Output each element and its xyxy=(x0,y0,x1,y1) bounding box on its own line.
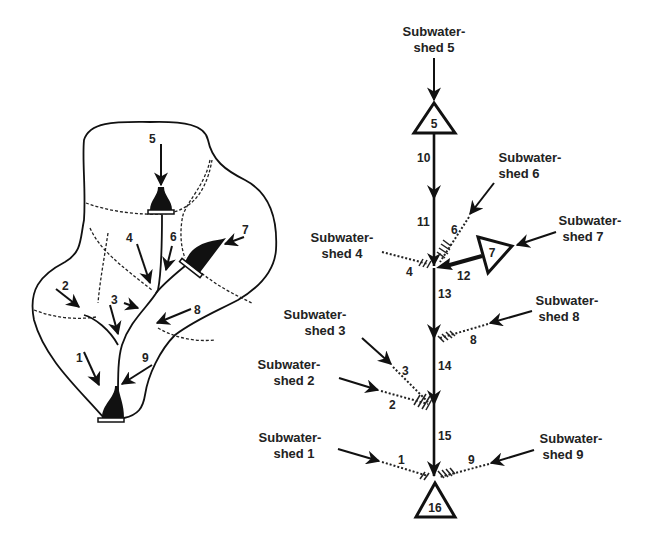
map-label-3: 3 xyxy=(111,293,118,307)
runoff-3-label: 3 xyxy=(402,364,409,378)
inflow-arrow-7 xyxy=(517,232,556,245)
reservoir-5-icon xyxy=(150,187,172,210)
map-label-8: 8 xyxy=(194,303,201,317)
inflow-arrow-6 xyxy=(470,183,494,214)
subwatershed-3-label-line2: shed 3 xyxy=(304,323,345,338)
runoff-3-line xyxy=(393,367,428,402)
map-arrow-4 xyxy=(137,244,150,283)
outlet-dam-icon xyxy=(98,418,124,422)
map-label-4: 4 xyxy=(126,231,133,245)
map-label-6: 6 xyxy=(170,230,177,244)
subwatershed-8-label-line1: Subwater- xyxy=(536,293,599,308)
inflow-arrow-2 xyxy=(339,378,378,390)
subwatershed-5-label-line2: shed 5 xyxy=(413,40,454,55)
inflow-arrow-3 xyxy=(362,338,391,364)
reservoir-5-label: 5 xyxy=(431,117,438,131)
inflow-arrow-8 xyxy=(490,311,532,323)
stream-left-branch xyxy=(84,315,118,345)
reach-13-label: 13 xyxy=(438,287,452,301)
map-arrow-6 xyxy=(166,246,172,270)
map-label-1: 1 xyxy=(76,351,83,365)
flow-network: Subwater- shed 5 5 10 11 Subwater- shed … xyxy=(258,24,622,517)
divide-2-4 xyxy=(98,233,108,303)
subwatershed-9-label-line1: Subwater- xyxy=(540,431,603,446)
subwatershed-2-label-line2: shed 2 xyxy=(273,373,314,388)
subwatershed-7-label-line1: Subwater- xyxy=(559,213,622,228)
map-arrow-3b xyxy=(124,303,138,308)
subwatershed-2-label-line1: Subwater- xyxy=(258,357,321,372)
runoff-9-label: 9 xyxy=(468,453,475,467)
dam-5-icon xyxy=(148,210,174,214)
stream-main xyxy=(118,215,162,398)
map-label-2: 2 xyxy=(62,279,69,293)
map-arrow-8 xyxy=(157,309,191,323)
divide-5 xyxy=(86,160,212,214)
runoff-2-hatch xyxy=(414,394,432,410)
subwatershed-8-label-line2: shed 8 xyxy=(538,309,579,324)
reservoir-7-label: 7 xyxy=(489,246,496,260)
subwatershed-9-label-line2: shed 9 xyxy=(542,447,583,462)
reach-15-label: 15 xyxy=(438,429,452,443)
watershed-diagram: 5 7 4 6 2 3 8 1 9 Subwater- shed 5 5 xyxy=(0,0,656,541)
reach-12-label: 12 xyxy=(457,269,471,283)
divide-7-8 xyxy=(198,270,252,303)
divide-8-9 xyxy=(158,328,215,341)
subwatershed-5-label-line1: Subwater- xyxy=(403,24,466,39)
reach-11-label: 11 xyxy=(417,215,430,229)
runoff-1-label: 1 xyxy=(398,453,405,467)
runoff-2-label: 2 xyxy=(389,398,396,412)
runoff-6-label: 6 xyxy=(451,223,458,237)
subwatershed-6-label-line1: Subwater- xyxy=(499,150,562,165)
reservoir-16-label: 16 xyxy=(428,501,442,515)
watershed-boundary xyxy=(32,122,276,418)
reach-14-label: 14 xyxy=(438,359,452,373)
runoff-8-line xyxy=(440,324,488,338)
reach-12-line xyxy=(446,256,482,266)
runoff-4-hatch xyxy=(419,259,431,268)
runoff-1-line xyxy=(382,462,428,476)
inflow-arrow-9 xyxy=(491,450,534,463)
map-label-9: 9 xyxy=(142,351,149,365)
subwatershed-3-label-line1: Subwater- xyxy=(284,307,347,322)
outlet-reservoir-icon xyxy=(102,386,124,418)
watershed-map: 5 7 4 6 2 3 8 1 9 xyxy=(32,122,276,422)
reach-10-label: 10 xyxy=(417,151,431,165)
subwatershed-7-label-line2: shed 7 xyxy=(562,229,603,244)
runoff-8-hatch xyxy=(438,331,455,342)
subwatershed-1-label-line2: shed 1 xyxy=(273,446,314,461)
inflow-arrow-7 xyxy=(225,237,244,244)
runoff-8-label: 8 xyxy=(470,333,477,347)
map-arrow-1 xyxy=(84,352,99,385)
map-arrow-3a xyxy=(110,305,118,334)
map-label-7: 7 xyxy=(242,223,249,237)
subwatershed-1-label-line1: Subwater- xyxy=(259,430,322,445)
subwatershed-4-label-line2: shed 4 xyxy=(321,246,363,261)
runoff-4-label: 4 xyxy=(406,265,413,279)
subwatershed-4-label-line1: Subwater- xyxy=(311,230,374,245)
divide-2-1 xyxy=(34,310,96,318)
inflow-arrow-1 xyxy=(338,449,379,461)
subwatershed-6-label-line2: shed 6 xyxy=(498,166,539,181)
map-label-5: 5 xyxy=(149,132,156,146)
